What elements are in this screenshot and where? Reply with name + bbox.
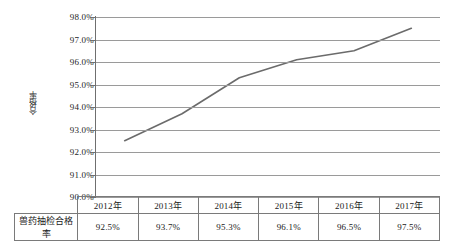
y-axis-tick-label: 97.0% [46, 35, 94, 44]
y-axis-tick-label: 92.0% [46, 148, 94, 157]
table-cell-value: 95.3% [198, 214, 258, 241]
table-row-values: 兽药抽检合格率 92.5%93.7%95.3%96.1%96.5%97.5% [15, 214, 440, 241]
table-cell-value: 92.5% [78, 214, 138, 241]
y-axis-tick-mark [90, 62, 96, 63]
y-axis-tick-mark [90, 85, 96, 86]
y-axis-tick-mark [90, 130, 96, 131]
gridline [96, 85, 440, 86]
table-row-label: 兽药抽检合格率 [15, 214, 78, 241]
gridline [96, 152, 440, 153]
table-cell-value: 93.7% [138, 214, 198, 241]
y-axis-tick-mark [90, 40, 96, 41]
table-cell-value: 96.1% [259, 214, 319, 241]
y-axis-title: 合格率 [26, 72, 42, 134]
gridline [96, 17, 440, 18]
y-axis-tick-mark [90, 107, 96, 108]
chart-figure: 合格率 90.0%91.0%92.0%93.0%94.0%95.0%96.0%9… [0, 0, 457, 239]
table-column-header: 2015年 [259, 197, 319, 214]
table-cell-value: 97.5% [379, 214, 439, 241]
table-row-header: 2012年2013年2014年2015年2016年2017年 [15, 197, 440, 214]
y-axis-tick-mark [90, 17, 96, 18]
y-axis-tick-label: 96.0% [46, 58, 94, 67]
table-column-header: 2017年 [379, 197, 439, 214]
table-cell-value: 96.5% [319, 214, 379, 241]
table-column-header: 2012年 [78, 197, 138, 214]
table-column-header: 2014年 [198, 197, 258, 214]
y-axis-tick-label: 95.0% [46, 80, 94, 89]
gridline [96, 107, 440, 108]
table-column-header: 2013年 [138, 197, 198, 214]
y-axis-tick-labels: 90.0%91.0%92.0%93.0%94.0%95.0%96.0%97.0%… [46, 0, 94, 205]
data-table: 2012年2013年2014年2015年2016年2017年 兽药抽检合格率 9… [14, 196, 440, 241]
y-axis-tick-mark [90, 152, 96, 153]
y-axis-tick-mark [90, 197, 96, 198]
gridline [96, 130, 440, 131]
table-column-header: 2016年 [319, 197, 379, 214]
y-axis-tick-label: 93.0% [46, 125, 94, 134]
gridline [96, 62, 440, 63]
table-corner-cell [15, 197, 78, 214]
y-axis-tick-label: 94.0% [46, 103, 94, 112]
y-axis-tick-label: 98.0% [46, 13, 94, 22]
gridline [96, 175, 440, 176]
y-axis-tick-mark [90, 175, 96, 176]
y-axis-tick-label: 91.0% [46, 170, 94, 179]
gridline [96, 40, 440, 41]
plot-area [96, 17, 440, 197]
